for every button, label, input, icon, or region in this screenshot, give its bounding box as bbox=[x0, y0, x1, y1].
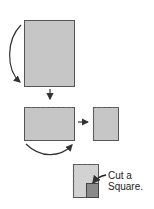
fold-right-arrow-icon bbox=[26, 144, 72, 155]
half-folded-sheet bbox=[25, 108, 75, 141]
caption-line-1: Cut a bbox=[108, 170, 143, 181]
cut-caption: Cut a Square. bbox=[108, 170, 143, 192]
caption-line-2: Square. bbox=[108, 181, 143, 192]
fold-down-arrow-icon bbox=[10, 25, 21, 82]
quarter-folded-sheet bbox=[94, 108, 119, 141]
full-sheet bbox=[25, 21, 75, 87]
cut-square bbox=[87, 184, 99, 198]
